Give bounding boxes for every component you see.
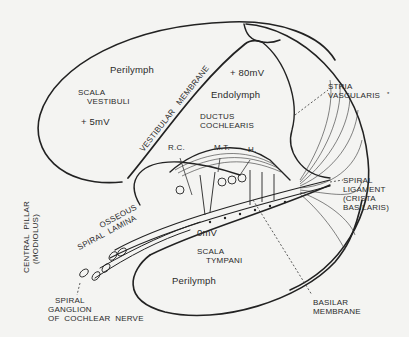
scala-tympani-name-2: TYMPANI bbox=[206, 256, 242, 265]
stria-label-1: STRIA bbox=[328, 82, 353, 91]
scala-tympani-name-1: SCALA bbox=[197, 247, 224, 256]
scala-vestibuli-fluid-label: Perilymph bbox=[110, 64, 154, 75]
stria-mark: * bbox=[387, 90, 390, 99]
basilar-label-2: MEMBRANE bbox=[313, 307, 361, 316]
spiral-ligament-label-4: BASILARIS) bbox=[343, 203, 389, 212]
spiral-ligament-leader bbox=[330, 180, 343, 182]
ganglion-leader bbox=[77, 283, 80, 295]
scala-vestibuli-outline bbox=[38, 22, 335, 183]
scala-vestibuli-name-2: VESTIBULI bbox=[87, 97, 130, 106]
tectorial-membrane bbox=[170, 148, 290, 180]
ductus-potential: + 80mV bbox=[230, 67, 264, 78]
vestibular-membrane-line bbox=[128, 41, 262, 178]
stria-label-2: VASCULARIS bbox=[328, 91, 380, 100]
stria-leader bbox=[295, 90, 328, 115]
cochlea-diagram: Perilymph SCALA VESTIBULI + 5mV + 80mV E… bbox=[0, 0, 409, 337]
basilar-label-1: BASILAR bbox=[313, 298, 348, 307]
stria-boundary bbox=[262, 42, 330, 178]
ganglion-label-2: GANGLION bbox=[48, 305, 92, 314]
central-pillar-label-2: (MODIOLUS) bbox=[31, 214, 40, 264]
mt-label: M.T. bbox=[214, 143, 230, 152]
scala-tympani-fluid-label: Perilymph bbox=[172, 275, 216, 286]
scala-vestibuli-potential: + 5mV bbox=[81, 116, 110, 127]
basilar-leader bbox=[253, 200, 312, 295]
ductus-name-1: DUCTUS bbox=[200, 112, 235, 121]
h-label: H. bbox=[248, 145, 256, 154]
spiral-ligament-label-3: (CRISTA bbox=[343, 194, 376, 203]
scala-vestibuli-name-1: SCALA bbox=[78, 88, 105, 97]
rc-label: R.C. bbox=[168, 143, 185, 152]
spiral-ligament-label-1: SPIRAL bbox=[343, 176, 373, 185]
central-pillar-label-1: CENTRAL PILLAR bbox=[22, 201, 31, 273]
ganglion-label-1: SPIRAL bbox=[55, 296, 85, 305]
cochlea-drawing bbox=[0, 0, 409, 337]
ganglion-label-3: OF COCHLEAR NERVE bbox=[48, 314, 144, 323]
mt-leader bbox=[218, 158, 220, 172]
spiral-ligament-label-2: LIGAMENT bbox=[343, 185, 386, 194]
scala-tympani-potential: 0mV bbox=[197, 227, 217, 238]
ductus-fluid-label: Endolymph bbox=[211, 89, 260, 100]
ductus-name-2: COCHLEARIS bbox=[200, 121, 254, 130]
